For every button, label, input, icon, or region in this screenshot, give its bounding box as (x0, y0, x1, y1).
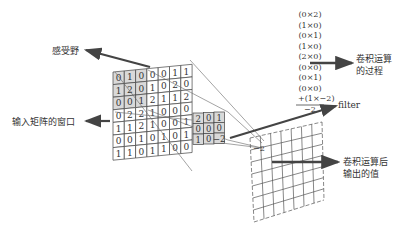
svg-text:0: 0 (116, 136, 122, 146)
svg-text:2: 2 (138, 121, 144, 131)
svg-text:0: 0 (172, 106, 178, 116)
calc-term: (0×1) (298, 73, 322, 84)
svg-text:1: 1 (172, 93, 178, 103)
calculation-steps: (0×2) (1×0) (0×1) (1×0) (2×0) (0×0) (0×1… (298, 10, 322, 115)
svg-text:0: 0 (127, 97, 133, 107)
svg-text:2: 2 (127, 85, 133, 95)
svg-text:0: 0 (127, 135, 133, 145)
calc-term: (0×1) (298, 31, 322, 42)
input-matrix: 0100011120102000121120221000112100100101… (113, 64, 192, 160)
svg-text:1: 1 (161, 94, 167, 104)
calc-result: −2 (298, 105, 322, 116)
svg-text:1: 1 (161, 132, 167, 142)
svg-text:0: 0 (172, 131, 178, 141)
svg-text:0: 0 (116, 98, 122, 108)
svg-text:1: 1 (150, 83, 156, 93)
svg-text:1: 1 (184, 67, 190, 77)
svg-text:0: 0 (217, 123, 222, 133)
svg-text:2: 2 (127, 110, 133, 120)
svg-text:0: 0 (196, 124, 201, 134)
filter-matrix: 20100010−2 (193, 112, 226, 145)
svg-text:0: 0 (184, 104, 190, 114)
svg-text:1: 1 (217, 113, 222, 123)
calc-term: (1×0) (298, 21, 322, 32)
svg-text:0: 0 (206, 113, 211, 123)
svg-text:1: 1 (138, 96, 144, 106)
calc-term: (0×2) (298, 10, 322, 21)
output-label-2: 输出的值 (343, 167, 379, 180)
svg-text:0: 0 (161, 81, 167, 91)
svg-text:0: 0 (138, 147, 144, 157)
svg-text:0: 0 (206, 124, 211, 134)
svg-text:2: 2 (138, 109, 144, 119)
svg-text:−2: −2 (253, 144, 265, 153)
svg-text:1: 1 (172, 68, 178, 78)
calc-term: (2×0) (298, 52, 322, 63)
svg-text:0: 0 (116, 73, 122, 83)
svg-text:1: 1 (116, 149, 122, 159)
svg-text:2: 2 (150, 95, 156, 105)
svg-text:1: 1 (127, 123, 133, 133)
conv-process-label-2: 的过程 (356, 64, 383, 77)
filter-label: filter (338, 100, 360, 110)
svg-text:1: 1 (150, 120, 156, 130)
svg-text:0: 0 (138, 84, 144, 94)
svg-text:1: 1 (116, 86, 122, 96)
svg-text:1: 1 (184, 117, 190, 127)
calc-term: (0×0) (298, 84, 322, 95)
svg-text:0: 0 (206, 134, 211, 144)
svg-text:2: 2 (196, 114, 201, 124)
calc-term: (1×0) (298, 42, 322, 53)
svg-text:2: 2 (184, 92, 190, 102)
svg-text:1: 1 (127, 148, 133, 158)
receptive-field-arrow (86, 50, 150, 67)
output-matrix: −2 (250, 122, 324, 222)
svg-text:1: 1 (116, 124, 122, 134)
svg-text:0: 0 (138, 71, 144, 81)
svg-text:0: 0 (184, 79, 190, 89)
svg-text:1: 1 (150, 146, 156, 156)
svg-text:1: 1 (184, 130, 190, 140)
svg-text:1: 1 (138, 134, 144, 144)
svg-text:1: 1 (161, 144, 167, 154)
svg-text:1: 1 (196, 135, 201, 145)
svg-text:0: 0 (161, 119, 167, 129)
svg-text:−2: −2 (213, 134, 226, 144)
input-window-label: 输入矩阵的窗口 (12, 115, 75, 128)
calc-term: +(1×−2) (298, 94, 322, 105)
svg-text:1: 1 (127, 72, 133, 82)
svg-text:0: 0 (184, 142, 190, 152)
calc-term: (0×0) (298, 63, 322, 74)
receptive-field-label: 感受野 (52, 44, 79, 57)
svg-text:0: 0 (150, 133, 156, 143)
